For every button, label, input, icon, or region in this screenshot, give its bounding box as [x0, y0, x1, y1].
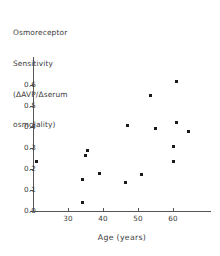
x-axis-tick: [68, 208, 69, 212]
x-axis-tick-label: 30: [58, 215, 78, 223]
x-axis-tick: [138, 208, 139, 212]
data-point: [84, 154, 87, 157]
x-axis-tick: [173, 208, 174, 212]
x-axis-tick-label: 50: [128, 215, 148, 223]
data-point: [81, 178, 84, 181]
data-point: [81, 201, 84, 204]
x-axis-tick: [103, 208, 104, 212]
data-point: [140, 173, 143, 176]
x-axis-tick-label: 60: [163, 215, 183, 223]
data-point: [172, 145, 175, 148]
data-point: [187, 130, 190, 133]
y-axis-tick-label: 0.6: [24, 81, 36, 89]
y-axis-tick-label: 0.2: [24, 165, 36, 173]
data-point: [35, 160, 38, 163]
y-axis-tick-label: 0.1: [24, 186, 36, 194]
y-axis-tick-label: 0.3: [24, 144, 36, 152]
data-point: [86, 149, 89, 152]
y-axis-tick-label: 0.5: [24, 102, 36, 110]
data-point: [154, 127, 157, 130]
data-point: [149, 94, 152, 97]
y-axis-tick-label: 0.4: [24, 123, 36, 131]
data-point: [98, 172, 101, 175]
scatter-plot-figure: Osmoreceptor Sensitivity (ΔAVP/Δserum os…: [0, 0, 220, 256]
x-axis-line: [33, 211, 211, 212]
x-axis-title: Age (years): [33, 233, 211, 242]
data-point: [172, 160, 175, 163]
data-point: [126, 124, 129, 127]
plot-area: 0.00.10.20.30.40.50.630405060 Age (years…: [0, 0, 220, 256]
x-axis-tick-label: 40: [93, 215, 113, 223]
y-axis-tick-label: 0.0: [24, 207, 36, 215]
data-point: [175, 80, 178, 83]
data-point: [175, 121, 178, 124]
data-point: [124, 181, 127, 184]
